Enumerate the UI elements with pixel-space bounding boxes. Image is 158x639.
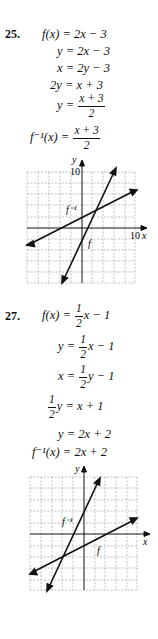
equation-step: x = 12y − 1 <box>58 364 114 390</box>
label-f: f <box>97 545 101 556</box>
equation-step: y = 12x − 1 <box>58 334 114 360</box>
label-f-inverse: f⁻¹ <box>62 516 73 527</box>
x-axis-label: x <box>142 536 148 547</box>
problem-number: 25. <box>5 27 20 42</box>
y-axis-label: y <box>71 155 77 165</box>
equation-step: f⁻¹(x) = 2x + 2 <box>32 446 107 459</box>
equation-step: f⁻¹(x) = x + 32 <box>30 125 101 151</box>
problem-number: 27. <box>5 309 20 324</box>
x-axis-label: x <box>141 230 147 241</box>
equation-step: 2y = x + 3 <box>50 79 103 92</box>
y-axis-label: y <box>74 465 80 474</box>
equation-step: y = 2x − 3 <box>57 45 110 58</box>
equation-step: f(x) = 12x − 1 <box>42 303 110 329</box>
x-tick-label: 10 <box>130 230 140 241</box>
y-tick-label: 10 <box>70 166 80 177</box>
equation-step: x = 2y − 3 <box>57 62 110 75</box>
equation-step: y = 2x + 2 <box>58 428 111 441</box>
axes <box>30 466 150 590</box>
equation-step: 12y = x + 1 <box>47 394 103 420</box>
equation-step: f(x) = 2x − 3 <box>42 28 107 41</box>
equation-step: y = x + 32 <box>57 93 106 119</box>
axes <box>27 160 147 283</box>
graph-25: f⁻¹ f y 10 10 x <box>0 155 158 295</box>
label-f: f <box>88 238 92 249</box>
label-f-inverse: f⁻¹ <box>66 204 77 215</box>
curve-f <box>62 168 116 283</box>
graph-27: f⁻¹ f y x <box>0 465 158 600</box>
